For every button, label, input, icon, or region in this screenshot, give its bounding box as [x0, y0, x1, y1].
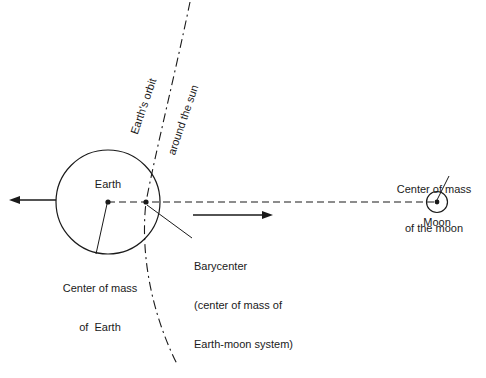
orbit-line-2: around the sun	[161, 74, 204, 166]
right-arrow-icon	[193, 211, 273, 219]
earth-label: Earth	[84, 178, 132, 191]
moon-center-of-mass-label: Center of mass of the moon	[386, 157, 482, 261]
barycenter-dot-icon	[143, 199, 148, 204]
barycenter-line-3: Earth-moon system)	[194, 338, 334, 351]
left-arrow-icon	[9, 196, 56, 204]
center-of-mass-dot-icon	[105, 199, 110, 204]
moon-com-line-2: of the moon	[386, 222, 482, 235]
barycenter-diagram: Earth Moon Center of mass of Earth Baryc…	[0, 0, 486, 378]
moon-com-line-1: Center of mass	[386, 183, 482, 196]
barycenter-line-1: Barycenter	[194, 260, 334, 273]
earth-com-line-2: of Earth	[32, 321, 168, 334]
leader-line-barycenter	[147, 205, 192, 238]
leader-line-earth-com	[96, 204, 107, 254]
barycenter-line-2: (center of mass of	[194, 299, 334, 312]
earth-com-line-1: Center of mass	[32, 282, 168, 295]
orbit-line-1: Earth's orbit	[122, 60, 165, 152]
barycenter-label: Barycenter (center of mass of Earth-moon…	[194, 234, 334, 377]
earth-center-of-mass-label: Center of mass of Earth	[32, 256, 168, 360]
